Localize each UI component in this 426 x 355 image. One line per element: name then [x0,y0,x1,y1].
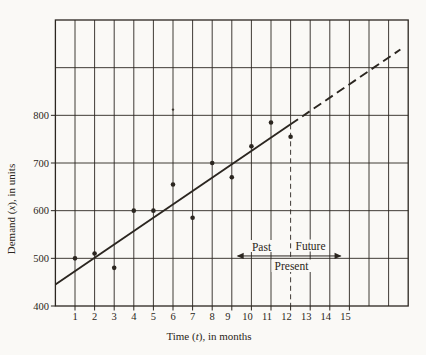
data-point [269,120,274,125]
data-point [288,134,293,139]
data-point [73,256,78,261]
x-tick-label: 1 [72,311,77,322]
y-tick-label: 700 [33,158,49,169]
x-tick-label: 9 [225,311,230,322]
data-point [230,175,235,180]
x-tick-label: 8 [210,311,215,322]
trend-line [55,50,400,285]
x-tick-labels: 123456789101112131415 [72,311,350,322]
past-label: Past [252,241,272,253]
data-point [210,161,215,166]
data-point [92,251,97,256]
x-axis-title: Time (t), in months [166,330,251,343]
x-tick-label: 15 [340,311,351,322]
trend-line-dashed [291,50,401,125]
x-tick-label: 3 [112,311,117,322]
y-tick-label: 600 [33,205,49,216]
data-point [249,144,254,149]
x-tick-label: 12 [281,311,292,322]
demand-time-chart: Past Future Present 12345678910111213141… [0,0,426,355]
x-tick-label: 7 [190,311,195,322]
future-label: Future [295,240,325,252]
gridlines [55,20,408,306]
stray-mark [172,108,174,110]
data-point [132,208,137,213]
x-tick-label: 2 [92,311,97,322]
x-tick-label: 14 [321,311,332,322]
demand-forecast-figure: Past Future Present 12345678910111213141… [0,0,426,355]
data-point [190,216,195,221]
y-axis-title: Demand (x), in units [5,164,18,254]
x-tick-label: 5 [151,311,156,322]
x-tick-label: 6 [170,311,175,322]
y-tick-label: 400 [33,301,49,312]
y-tick-label: 800 [33,110,49,121]
data-point [112,266,117,271]
axis-ticks [51,115,350,310]
data-point [151,208,156,213]
x-tick-label: 4 [131,311,137,322]
y-tick-label: 500 [33,253,49,264]
x-tick-label: 10 [242,311,253,322]
x-tick-label: 13 [301,311,312,322]
data-point [171,182,176,187]
x-tick-label: 11 [262,311,272,322]
present-label: Present [275,260,310,272]
y-tick-labels: 400500600700800 [33,110,49,312]
